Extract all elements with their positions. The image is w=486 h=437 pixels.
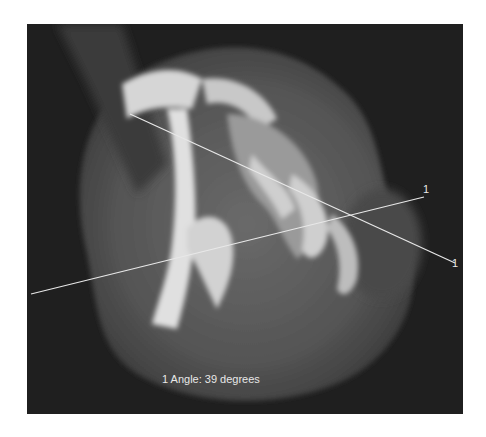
scan-anatomy xyxy=(27,24,463,414)
ct-scan-image: 1 1 1 Angle: 39 degrees xyxy=(27,24,463,414)
angle-measurement-readout: 1 Angle: 39 degrees xyxy=(162,373,260,385)
line-b-label: 1 xyxy=(452,257,458,269)
line-a-label: 1 xyxy=(423,183,429,195)
